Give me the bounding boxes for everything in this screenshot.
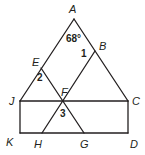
label-b: B [99,40,106,52]
label-a: A [68,3,76,15]
label-c: C [132,95,140,107]
label-h: H [34,138,42,150]
label-g: G [80,138,89,150]
geometry-diagram: A B C D E F G H J K 68° 1 2 3 [0,0,145,155]
point-labels: A B C D E F G H J K [6,3,140,150]
angle-1-label: 1 [81,48,87,59]
segment-bh [42,51,95,133]
angle-3-label: 3 [60,108,66,119]
label-e: E [32,56,40,68]
label-j: J [8,95,15,107]
segment-ac [74,19,128,101]
label-k: K [6,136,14,148]
angle-2-label: 2 [37,72,43,83]
angle-a-measure: 68° [66,33,81,44]
label-d: D [130,138,138,150]
